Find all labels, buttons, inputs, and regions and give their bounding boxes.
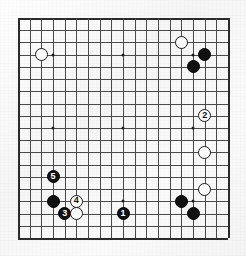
stone-black[interactable] [175,195,188,208]
move-number-label: 5 [50,172,55,181]
star-point [122,53,125,56]
grid-line-vertical [228,18,230,238]
stone-black[interactable] [187,207,200,220]
stone-white-move-4[interactable]: 4 [70,195,83,208]
star-point [192,53,195,56]
grid-line-vertical [170,18,171,238]
grid-line-vertical [65,18,66,238]
star-point [122,126,125,129]
stone-white[interactable] [175,36,188,49]
stone-black[interactable] [47,195,60,208]
go-board-grid: 25431 [18,18,228,238]
stone-white[interactable] [198,183,211,196]
stone-white-move-2[interactable]: 2 [198,109,211,122]
star-point [52,126,55,129]
grid-line-vertical [146,18,147,238]
star-point [192,126,195,129]
stone-white[interactable] [70,207,83,220]
grid-line-vertical [18,18,20,238]
move-number-label: 2 [202,111,207,120]
grid-line-vertical [216,18,217,238]
grid-line-vertical [30,18,31,238]
move-number-label: 4 [74,196,79,205]
stone-black[interactable] [187,60,200,73]
grid-line-vertical [111,18,112,238]
stone-white[interactable] [35,48,48,61]
grid-line-vertical [158,18,159,238]
star-point [192,200,195,203]
grid-line-vertical [88,18,89,238]
stone-white[interactable] [198,146,211,159]
move-number-label: 1 [120,209,125,218]
stone-black[interactable] [198,48,211,61]
grid-line-vertical [100,18,101,238]
go-board-diagram: 25431 [0,0,246,256]
stone-black-move-5[interactable]: 5 [47,170,60,183]
star-point [52,53,55,56]
grid-line-vertical [135,18,136,238]
stone-black-move-1[interactable]: 1 [117,207,130,220]
move-number-label: 3 [62,209,67,218]
star-point [122,200,125,203]
grid-line-horizontal [18,238,228,240]
